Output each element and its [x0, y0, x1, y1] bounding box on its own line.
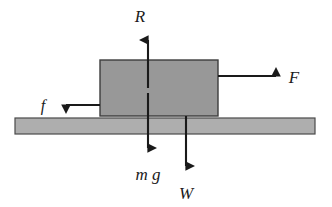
label-friction-force: f: [41, 97, 48, 115]
label-normal-reaction: R: [134, 7, 146, 26]
force-diagram-figure: R F f m g W: [0, 0, 332, 207]
label-weight-force: W: [179, 184, 195, 203]
label-mg-force: m g: [135, 165, 160, 184]
block-body: [100, 60, 218, 116]
ground-surface: [15, 118, 315, 134]
force-diagram-canvas: R F f m g W: [0, 0, 332, 207]
label-applied-force: F: [288, 68, 300, 87]
